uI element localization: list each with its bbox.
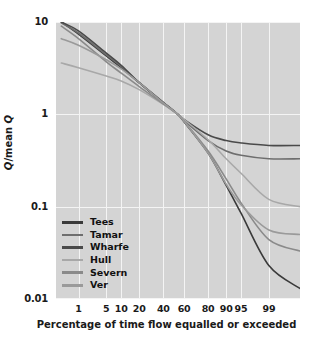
y-tick-0.01: 0.01	[8, 293, 48, 304]
legend-item-tamar: Tamar	[62, 229, 129, 242]
legend-swatch-ver	[62, 284, 83, 287]
legend-label-severn: Severn	[90, 267, 127, 279]
legend-label-hull: Hull	[90, 254, 111, 266]
curve-tamar	[61, 23, 300, 159]
legend: TeesTamarWharfeHullSevernVer	[62, 216, 129, 292]
x-tick-95: 95	[229, 303, 253, 314]
legend-item-severn: Severn	[62, 266, 129, 279]
y-tick-1: 1	[8, 108, 48, 119]
x-axis-title: Percentage of time flow equalled or exce…	[0, 319, 333, 330]
curve-wharfe	[61, 22, 300, 146]
legend-item-hull: Hull	[62, 254, 129, 267]
legend-swatch-tees	[62, 221, 83, 224]
x-tick-99: 99	[257, 303, 281, 314]
y-axis-title: Q/mean Q	[3, 83, 14, 203]
legend-swatch-wharfe	[62, 246, 83, 249]
y-tick-10: 10	[8, 16, 48, 27]
x-tick-20: 20	[127, 303, 151, 314]
legend-label-ver: Ver	[90, 279, 108, 291]
legend-swatch-hull	[62, 259, 83, 262]
x-tick-1: 1	[67, 303, 91, 314]
x-tick-60: 60	[172, 303, 196, 314]
legend-label-wharfe: Wharfe	[90, 241, 129, 253]
curve-ver	[61, 39, 300, 235]
legend-item-wharfe: Wharfe	[62, 241, 129, 254]
legend-label-tees: Tees	[90, 216, 114, 228]
curve-hull	[61, 63, 300, 207]
legend-label-tamar: Tamar	[90, 229, 123, 241]
legend-swatch-severn	[62, 271, 83, 274]
legend-swatch-tamar	[62, 234, 83, 237]
legend-item-ver: Ver	[62, 279, 129, 292]
y-tick-0.1: 0.1	[8, 201, 48, 212]
legend-item-tees: Tees	[62, 216, 129, 229]
flow-duration-chart: 1010.10.01 151020406080909599 Q/mean Q P…	[0, 0, 333, 344]
